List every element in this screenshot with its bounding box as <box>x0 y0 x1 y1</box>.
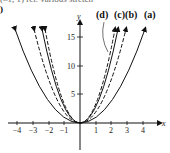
leader-line-d <box>103 22 108 52</box>
legend-cb: (c)(b) <box>114 9 137 21</box>
svg-text:2: 2 <box>109 126 113 135</box>
svg-text:5: 5 <box>71 90 75 99</box>
svg-text:−1: −1 <box>60 126 69 135</box>
svg-text:−2: −2 <box>45 126 54 135</box>
svg-text:−4: −4 <box>13 126 22 135</box>
x-axis-label: x <box>161 119 166 128</box>
svg-text:15: 15 <box>67 33 75 42</box>
parabola-graph: x y −4−3 −2−1 12 34 51015 (d) (c)(b) (a) <box>0 0 170 153</box>
y-axis-label: y <box>76 12 81 21</box>
svg-text:4: 4 <box>141 126 145 135</box>
legend-d: (d) <box>96 9 108 21</box>
svg-text:−3: −3 <box>29 126 38 135</box>
svg-text:3: 3 <box>125 126 129 135</box>
svg-text:1: 1 <box>94 126 98 135</box>
legend-a: (a) <box>144 9 156 21</box>
svg-text:10: 10 <box>67 62 75 71</box>
